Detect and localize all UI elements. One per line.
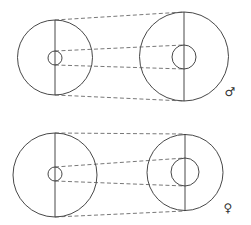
dashed-line-inner-top: [55, 158, 185, 167]
dashed-line-outer-bottom: [55, 95, 184, 101]
dashed-line-inner-bottom: [55, 181, 185, 186]
male-symbol-icon: ♂: [225, 85, 236, 99]
male-panel: ♂: [18, 12, 236, 101]
pulley-diagram: ♂ ♀: [0, 0, 251, 225]
dashed-line-outer-top: [55, 133, 185, 134]
dashed-line-inner-top: [55, 45, 184, 51]
female-symbol-icon: ♀: [224, 201, 233, 215]
dashed-line-inner-bottom: [55, 65, 184, 69]
female-panel: ♀: [13, 133, 232, 217]
